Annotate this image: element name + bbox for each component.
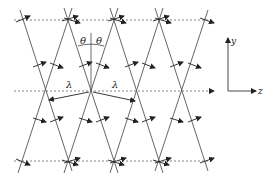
- lambda-label-left: λ: [65, 79, 72, 90]
- lambda-arrow-left: [49, 92, 89, 100]
- y-axis-label: y: [230, 36, 237, 46]
- theta-label-left: θ: [80, 35, 86, 46]
- dashed-nodal-lines: [14, 20, 214, 161]
- lambda-label-right: λ: [111, 79, 118, 90]
- lambda-arrow-right: [93, 92, 135, 101]
- ray-lines: [18, 8, 208, 173]
- wave-interference-diagram: θ θ λ λ y z: [0, 0, 273, 181]
- z-axis-label: z: [257, 86, 263, 96]
- theta-label-right: θ: [96, 35, 102, 46]
